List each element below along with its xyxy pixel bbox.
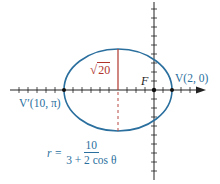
vertex-left-point	[62, 88, 66, 92]
focus-label: F	[141, 75, 148, 87]
focus-point	[152, 88, 156, 92]
vertex-left-label: V′(10, π)	[19, 98, 61, 110]
polar-equation: r = 10 3 + 2 cos θ	[47, 139, 116, 168]
vertex-right-point	[170, 88, 174, 92]
equation-numerator: 10	[84, 139, 100, 153]
equation-lhs: r =	[47, 147, 62, 159]
equation-denominator: 3 + 2 cos θ	[66, 153, 116, 167]
vertex-right-label: V(2, 0)	[175, 73, 208, 85]
equation-fraction: 10 3 + 2 cos θ	[66, 139, 116, 168]
ellipse-diagram: √20 F V(2, 0) V′(10, π) r = 10 3 + 2 cos…	[0, 0, 220, 184]
semi-minor-label: √20	[90, 63, 110, 76]
x-axis-arrow-icon	[196, 87, 206, 94]
